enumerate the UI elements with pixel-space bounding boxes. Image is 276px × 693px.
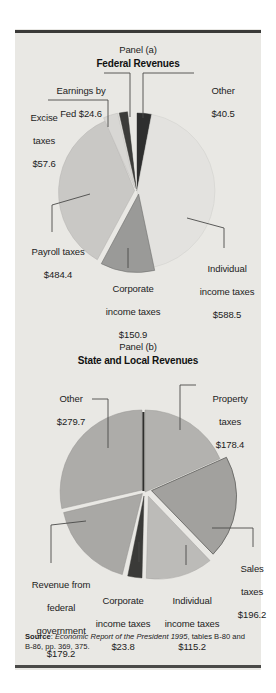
label-sales-l3: $196.2 <box>238 609 266 620</box>
label-corporate-b-l1: Corporate <box>102 595 143 606</box>
label-individual-b-l1: Individual <box>173 595 212 606</box>
label-sales-l2: taxes <box>241 586 263 597</box>
label-property-taxes-b: Property taxes $178.4 <box>196 381 254 462</box>
label-sales-l1: Sales <box>240 563 263 574</box>
label-revenue-from-federal-government-b: Revenue from federal government $179.2 <box>18 567 94 671</box>
label-individual-b-l2: income taxes <box>165 618 220 629</box>
label-fedrev-l2: federal <box>47 602 75 613</box>
source-prefix: Source <box>25 632 51 641</box>
label-other-b-name: Other <box>59 393 82 404</box>
label-property-l2: taxes <box>219 416 241 427</box>
label-fedrev-l1: Revenue from <box>32 579 90 590</box>
source-italic-title: Economic Report of the President 1995 <box>55 632 188 641</box>
label-other-b-value: $279.7 <box>57 416 85 427</box>
figure-container: Panel (a) Federal Revenues Earnings by F… <box>0 0 276 693</box>
label-property-l1: Property <box>213 393 248 404</box>
source-note: Source: Economic Report of the President… <box>25 632 253 652</box>
label-corporate-b-l2: income taxes <box>96 618 151 629</box>
label-property-l3: $178.4 <box>216 439 244 450</box>
label-other-b: Other $279.7 <box>38 381 94 439</box>
label-sales-taxes-b: Sales taxes $196.2 <box>224 551 270 632</box>
